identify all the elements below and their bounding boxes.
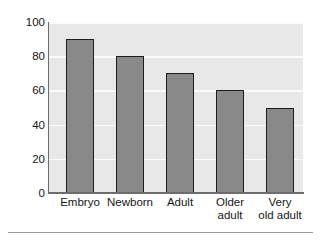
y-tick-label: 100 <box>15 17 45 27</box>
x-axis-line <box>48 192 304 194</box>
x-axis-tick-labels: Embryo Newborn Adult Older adult Very ol… <box>48 196 304 232</box>
bar-very-old-adult <box>266 108 294 194</box>
bar-newborn <box>116 56 144 193</box>
bar-adult <box>166 73 194 193</box>
bar-embryo <box>66 39 94 193</box>
x-tick-label-very-old-adult: Very old adult <box>241 196 319 222</box>
bar-older-adult <box>216 90 244 193</box>
y-axis-tick-labels: 100 80 60 40 20 0 <box>8 0 45 240</box>
y-tick-label: 20 <box>15 154 45 164</box>
gridline-100 <box>49 22 303 24</box>
bottom-divider <box>8 232 313 233</box>
y-tick-label: 40 <box>15 120 45 130</box>
plot-area <box>48 22 303 193</box>
bar-chart-figure: Percent water 100 80 60 40 20 0 Embryo N… <box>0 0 321 240</box>
y-tick-label: 60 <box>15 85 45 95</box>
plot-inner <box>49 22 303 193</box>
y-tick-label: 80 <box>15 51 45 61</box>
